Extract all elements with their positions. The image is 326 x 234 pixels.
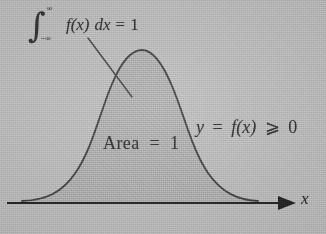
integral-lower-limit: −∞ xyxy=(41,35,51,43)
function-y-symbol: y xyxy=(196,117,204,137)
area-value: 1 xyxy=(170,133,179,153)
integral-equals-sign: = xyxy=(116,16,126,33)
function-relation-symbol: ⩾ xyxy=(265,117,280,137)
integral-value: 1 xyxy=(130,16,139,33)
integral-integrand: f(x) xyxy=(66,16,90,33)
x-axis-label: x xyxy=(301,190,309,207)
area-equals-sign: = xyxy=(149,133,160,153)
x-axis-arrowhead xyxy=(278,196,296,210)
integral-annotation: ∫ ∞ −∞ f(x) dx = 1 xyxy=(28,9,139,39)
function-annotation: y = f(x) ⩾ 0 xyxy=(196,118,297,136)
function-equals-sign: = xyxy=(213,117,223,137)
function-expression: f(x) xyxy=(231,117,256,137)
integral-limits: ∞ −∞ xyxy=(47,9,57,39)
function-bound-value: 0 xyxy=(288,117,297,137)
area-text: Area xyxy=(103,133,140,153)
integral-differential: dx xyxy=(95,16,111,33)
figure-root: ∫ ∞ −∞ f(x) dx = 1 Area = 1 y = f(x) ⩾ 0… xyxy=(0,0,326,234)
integral-upper-limit: ∞ xyxy=(47,5,57,13)
area-annotation: Area = 1 xyxy=(103,134,179,152)
